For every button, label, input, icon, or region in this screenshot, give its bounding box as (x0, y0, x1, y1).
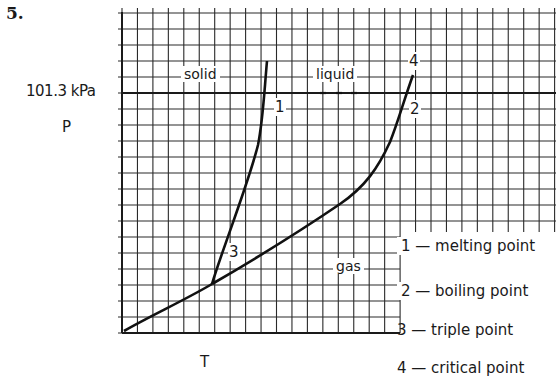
point-label-critical: 4 (408, 52, 420, 70)
legend-item-boiling-point: 2 — boiling point (397, 282, 528, 300)
point-label-boiling: 2 (409, 100, 421, 118)
point-label-triple: 3 (228, 243, 240, 261)
x-axis-label: T (200, 353, 209, 371)
legend-item-triple-point: 3 — triple point (397, 321, 513, 339)
region-gas-label: gas (333, 258, 364, 274)
pressure-reference-label: 101.3 kPa (26, 82, 95, 100)
legend-item-critical-point: 4 — critical point (397, 359, 524, 377)
region-liquid-label: liquid (313, 66, 357, 82)
y-axis-label: P (62, 118, 71, 136)
region-solid-label: solid (181, 66, 220, 82)
legend-item-melting-point: 1 — melting point (397, 237, 535, 255)
question-number: 5. (6, 3, 24, 23)
point-label-melting: 1 (274, 98, 286, 116)
